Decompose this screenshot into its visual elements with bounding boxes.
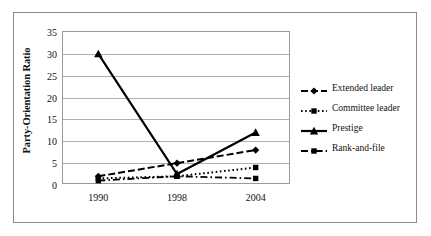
legend-key-icon (300, 143, 328, 155)
legend-item-prestige[interactable]: Prestige (300, 120, 420, 137)
y-axis-tick-label: 15 (29, 114, 57, 125)
x-axis-tick-label: 2004 (226, 192, 286, 203)
series-lines-layer (63, 32, 291, 185)
legend-item-rank-and-file[interactable]: Rank-and-file (300, 140, 420, 157)
legend-item-label: Prestige (332, 124, 363, 134)
series-line (98, 54, 255, 174)
data-point-marker (310, 87, 317, 94)
x-axis-tick-label: 1990 (68, 192, 128, 203)
y-axis-tick-label: 10 (29, 136, 57, 147)
x-axis-tick-label: 1998 (147, 192, 207, 203)
chart-legend: Extended leaderCommittee leaderPrestigeR… (300, 80, 420, 160)
series-prestige (94, 50, 260, 178)
y-axis-tick-label: 20 (29, 92, 57, 103)
legend-item-label: Extended leader (332, 84, 393, 94)
legend-item-label: Committee leader (332, 104, 400, 114)
legend-item-extended-leader[interactable]: Extended leader (300, 80, 420, 97)
legend-key-icon (300, 123, 328, 135)
data-point-marker (173, 160, 180, 167)
legend-item-committee-leader[interactable]: Committee leader (300, 100, 420, 117)
legend-key-icon (300, 103, 328, 115)
chart-figure: Party-Orientation Ratio 05101520253035 1… (0, 0, 431, 236)
y-axis-tick-label: 5 (29, 158, 57, 169)
data-point-marker (253, 176, 258, 181)
y-axis-tick-label: 0 (29, 180, 57, 191)
legend-key-icon (300, 83, 328, 95)
data-point-marker (252, 146, 259, 153)
data-point-marker (174, 174, 179, 179)
y-axis-tick-label: 25 (29, 70, 57, 81)
plot-area: 05101520253035 199019982004 (62, 31, 290, 184)
data-point-marker (253, 165, 258, 170)
y-axis-tick-label: 35 (29, 27, 57, 38)
legend-item-label: Rank-and-file (332, 144, 385, 154)
y-axis-tick-label: 30 (29, 48, 57, 59)
data-point-marker (96, 178, 101, 183)
data-point-marker (251, 128, 259, 136)
data-point-marker (311, 148, 316, 153)
data-point-marker (94, 50, 102, 58)
data-point-marker (311, 108, 316, 113)
